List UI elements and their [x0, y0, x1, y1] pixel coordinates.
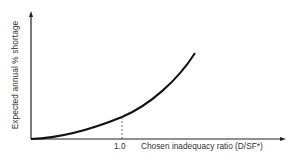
y-axis-label-text: Expected annual % shortage: [10, 21, 20, 130]
shortage-curve: [31, 53, 195, 139]
y-axis-arrow-icon: [29, 11, 33, 17]
x-axis-label: Chosen inadequacy ratio (D/SF*): [141, 141, 263, 151]
x-tick-1-0: 1.0: [114, 141, 126, 151]
x-axis-arrow-icon: [280, 137, 286, 141]
chart-plot: [0, 0, 301, 159]
y-axis-label: Expected annual % shortage: [3, 12, 27, 138]
